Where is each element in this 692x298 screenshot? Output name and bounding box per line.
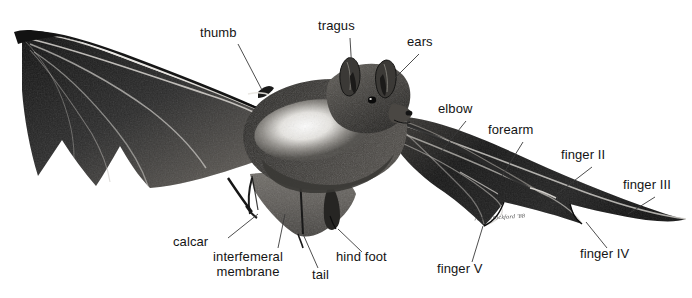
leader-calcar: [228, 214, 258, 238]
label-thumb: thumb: [200, 25, 237, 40]
label-finger-2: finger II: [561, 147, 605, 162]
leader-finger-5: [472, 226, 483, 262]
label-elbow: elbow: [438, 101, 472, 116]
label-tragus: tragus: [318, 18, 355, 33]
label-forearm: forearm: [488, 122, 534, 137]
label-interfemoral-membrane: interfemeral membrane: [193, 249, 303, 279]
head: [326, 58, 412, 134]
label-ears: ears: [407, 34, 433, 49]
label-finger-4: finger IV: [580, 246, 629, 261]
leader-thumb: [238, 44, 262, 90]
label-hind-foot: hind foot: [336, 249, 387, 264]
label-finger-5: finger V: [437, 261, 483, 276]
label-finger-3: finger III: [623, 177, 671, 192]
label-tail: tail: [312, 267, 329, 282]
eye-highlight: [369, 98, 371, 100]
leader-tail: [303, 234, 318, 268]
right-wing: [396, 116, 686, 226]
bat-anatomy-figure: thumb tragus ears elbow forearm finger I…: [0, 0, 692, 298]
eye: [368, 97, 376, 104]
nose: [406, 110, 413, 115]
leader-finger-4: [586, 222, 607, 248]
label-calcar: calcar: [173, 234, 208, 249]
